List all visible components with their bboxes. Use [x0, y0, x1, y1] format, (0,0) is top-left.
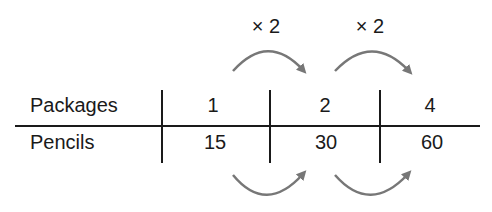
top-arrow-2-icon	[335, 52, 409, 72]
bottom-arrow-2-icon	[335, 174, 408, 195]
table-lines-and-arrows	[0, 0, 492, 212]
bottom-arrow-1-icon	[233, 174, 303, 195]
top-arrow-1-icon	[233, 51, 303, 71]
